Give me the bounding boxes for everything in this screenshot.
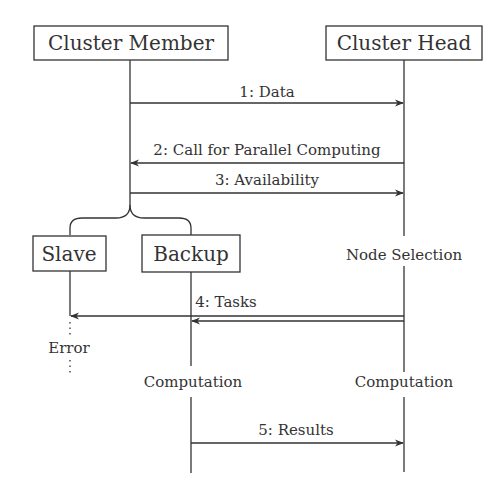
message-3-availability: 3: Availability: [130, 171, 403, 193]
brace-right-icon: [130, 205, 191, 235]
cluster-member-label: Cluster Member: [48, 31, 215, 55]
message-3-label: 3: Availability: [215, 171, 320, 189]
participant-backup: Backup: [142, 235, 240, 272]
slave-label: Slave: [41, 242, 96, 266]
backup-computation-label: Computation: [144, 373, 243, 391]
brace-left-icon: [70, 195, 130, 235]
sequence-diagram: Cluster Member Cluster Head 1: Data 2: C…: [0, 0, 502, 502]
message-1-data: 1: Data: [130, 83, 403, 103]
slave-error-label: Error: [48, 339, 90, 357]
participant-slave: Slave: [33, 236, 106, 271]
message-5-label: 5: Results: [258, 421, 333, 439]
message-4-label: 4: Tasks: [195, 293, 257, 311]
cluster-head-label: Cluster Head: [337, 31, 472, 55]
participant-cluster-member: Cluster Member: [34, 26, 228, 60]
message-4-tasks: 4: Tasks: [71, 293, 404, 321]
message-2-label: 2: Call for Parallel Computing: [153, 141, 381, 159]
node-selection-label: Node Selection: [346, 246, 462, 264]
head-computation-label: Computation: [355, 373, 454, 391]
message-2-call: 2: Call for Parallel Computing: [131, 141, 404, 163]
message-1-label: 1: Data: [239, 83, 294, 101]
backup-label: Backup: [153, 242, 229, 266]
message-5-results: 5: Results: [191, 421, 403, 443]
participant-cluster-head: Cluster Head: [326, 26, 482, 60]
